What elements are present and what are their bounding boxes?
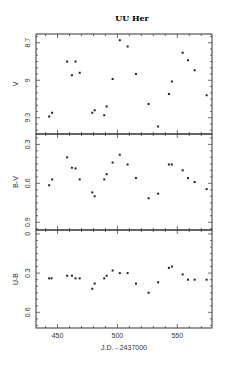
data-point: [106, 275, 108, 277]
y-axis-label: V: [12, 81, 19, 86]
data-point: [182, 273, 184, 275]
data-point: [48, 116, 50, 118]
data-point: [194, 279, 196, 281]
data-point: [119, 272, 121, 274]
data-point: [75, 167, 77, 169]
data-point: [91, 288, 93, 290]
panel-frame: [36, 230, 212, 328]
panels: 8.799.3V0.30.60.9B-V00.30.6U-B450500550: [12, 34, 212, 339]
data-point: [182, 52, 184, 54]
data-point: [66, 61, 68, 63]
y-tick-label: 0.3: [24, 268, 31, 278]
data-point: [71, 275, 73, 277]
chart-title: UU Her: [115, 13, 149, 23]
y-tick-label: 8.7: [24, 38, 31, 48]
data-point: [48, 184, 50, 186]
x-axis-label: J.D. - 2437000: [101, 344, 147, 351]
data-point: [112, 78, 114, 80]
data-point: [94, 195, 96, 197]
data-point: [66, 156, 68, 158]
y-tick-label: 0.6: [24, 307, 31, 317]
data-point: [127, 46, 129, 48]
data-point: [91, 191, 93, 193]
data-point: [135, 283, 137, 285]
data-point: [135, 73, 137, 75]
panel-frame: [36, 134, 212, 230]
data-point: [112, 162, 114, 164]
data-point: [194, 181, 196, 183]
data-point: [187, 279, 189, 281]
x-tick-label: 500: [112, 332, 124, 339]
y-axis-label: B-V: [12, 176, 19, 188]
data-point: [187, 177, 189, 179]
data-point: [79, 72, 81, 74]
y-tick-label: 9: [24, 78, 31, 82]
data-point: [94, 283, 96, 285]
data-point: [157, 281, 159, 283]
x-tick-label: 550: [171, 332, 183, 339]
x-tick-label: 450: [52, 332, 64, 339]
data-point: [148, 197, 150, 199]
data-point: [79, 178, 81, 180]
y-tick-label: 9.3: [24, 113, 31, 123]
data-point: [119, 154, 121, 156]
data-point: [168, 163, 170, 165]
data-point: [171, 163, 173, 165]
panel-frame: [36, 34, 212, 134]
y-tick-label: 0.9: [24, 217, 31, 227]
data-point: [106, 173, 108, 175]
data-point: [79, 277, 81, 279]
bv-panel: 0.30.60.9B-V: [12, 134, 212, 230]
y-tick-label: 0: [24, 232, 31, 236]
data-point: [168, 93, 170, 95]
data-point: [103, 114, 105, 116]
data-point: [94, 109, 96, 111]
y-tick-label: 0.6: [24, 178, 31, 188]
data-point: [66, 275, 68, 277]
data-point: [119, 39, 121, 41]
data-point: [71, 167, 73, 169]
data-point: [91, 112, 93, 114]
data-point: [148, 103, 150, 105]
data-point: [168, 267, 170, 269]
data-point: [112, 270, 114, 272]
data-point: [182, 169, 184, 171]
data-point: [127, 272, 129, 274]
data-point: [157, 193, 159, 195]
data-point: [51, 277, 53, 279]
data-point: [75, 61, 77, 63]
data-point: [187, 59, 189, 61]
data-point: [106, 106, 108, 108]
v-panel: 8.799.3V: [12, 34, 212, 134]
data-point: [48, 277, 50, 279]
data-point: [103, 277, 105, 279]
ub-panel: 00.30.6U-B: [12, 230, 212, 328]
data-point: [194, 69, 196, 71]
data-point: [103, 178, 105, 180]
data-point: [148, 292, 150, 294]
light-curve-figure: UU Her 8.799.3V0.30.60.9B-V00.30.6U-B450…: [0, 0, 225, 367]
data-point: [51, 178, 53, 180]
data-point: [157, 126, 159, 128]
y-tick-label: 0.3: [24, 139, 31, 149]
data-point: [206, 94, 208, 96]
data-point: [206, 188, 208, 190]
data-point: [171, 81, 173, 83]
data-point: [171, 266, 173, 268]
data-point: [75, 277, 77, 279]
data-point: [127, 163, 129, 165]
data-point: [51, 112, 53, 114]
data-point: [206, 279, 208, 281]
data-point: [71, 74, 73, 76]
y-axis-label: U-B: [12, 273, 19, 285]
data-point: [135, 177, 137, 179]
